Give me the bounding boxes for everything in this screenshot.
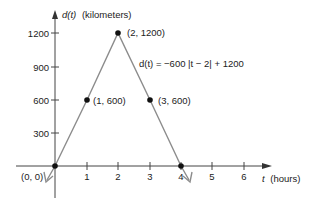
x-tick-3: 3 — [147, 171, 152, 182]
graph-series — [44, 33, 192, 182]
equation-annotation: d(t) = −600 |t − 2| + 1200 — [139, 58, 244, 69]
x-axis-arrow-icon — [262, 163, 272, 169]
x-tick-4: 4 — [178, 171, 183, 182]
tick-labels: 1 2 3 4 5 6 300 600 900 1200 — [28, 28, 247, 183]
y-axis-arrow-icon — [52, 10, 58, 19]
x-tick-2: 2 — [115, 171, 120, 182]
point-2-1200 — [115, 30, 121, 36]
point-4-0 — [178, 163, 184, 169]
y-tick-300: 300 — [33, 128, 49, 139]
chart-canvas: 1 2 3 4 5 6 300 600 900 1200 d(t) (kilom… — [0, 0, 313, 207]
y-tick-900: 900 — [33, 62, 49, 73]
point-3-600 — [147, 97, 153, 103]
x-axis-unit: (hours) — [270, 173, 300, 184]
point-origin — [52, 163, 58, 169]
x-tick-5: 5 — [209, 171, 214, 182]
label-point-3: (3, 600) — [158, 95, 191, 106]
point-1-600 — [84, 97, 90, 103]
label-point-1: (1, 600) — [93, 95, 126, 106]
x-axis-var: t — [262, 173, 265, 184]
axes — [16, 10, 272, 198]
x-axis-title: t (hours) — [262, 173, 300, 184]
label-point-2: (2, 1200) — [127, 27, 165, 38]
y-axis-unit: (kilometers) — [82, 9, 132, 20]
x-tick-1: 1 — [84, 171, 89, 182]
y-tick-1200: 1200 — [28, 28, 49, 39]
y-tick-600: 600 — [33, 95, 49, 106]
label-origin: (0, 0) — [21, 171, 43, 182]
absolute-value-line — [47, 33, 189, 180]
y-axis-fn: d(t) — [62, 9, 76, 20]
y-axis-title: d(t) (kilometers) — [62, 9, 132, 20]
x-tick-6: 6 — [241, 171, 246, 182]
